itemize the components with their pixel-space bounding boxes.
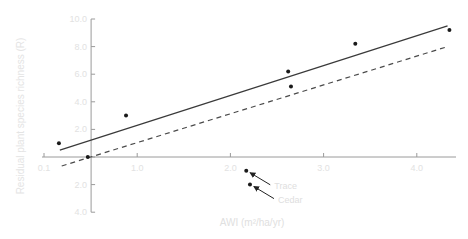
data-point — [248, 183, 252, 187]
y-axis-title-group: Residual plant species richness (R) — [15, 38, 26, 195]
x-tick-label: 3.0 — [317, 163, 330, 173]
y-axis-title: Residual plant species richness (R) — [15, 38, 26, 195]
data-points — [57, 28, 452, 187]
x-axis-title: AWI (m²/ha/yr) — [220, 217, 285, 228]
annotation-label: Cedar — [278, 195, 303, 205]
y-tick-label: 10.0 — [70, 14, 88, 24]
y-tick-label: 4.0 — [75, 207, 88, 217]
axes: 0.11.02.03.04.010.08.06.04.02.02.04.0 — [38, 14, 456, 217]
annotation-arrow — [250, 173, 270, 185]
x-tick-label: 2.0 — [224, 163, 237, 173]
dashed-regression-line — [62, 47, 448, 166]
x-tick-label: 1.0 — [131, 163, 144, 173]
data-point — [57, 141, 61, 145]
scatter-chart: Residual plant species richness (R) 0.11… — [0, 0, 468, 239]
x-tick-label: 4.0 — [411, 163, 424, 173]
annotation-label: Trace — [274, 181, 297, 191]
y-tick-label: 6.0 — [75, 69, 88, 79]
data-point — [86, 155, 90, 159]
x-tick-label: 0.1 — [38, 163, 51, 173]
y-tick-label: 2.0 — [75, 124, 88, 134]
y-tick-label: 8.0 — [75, 42, 88, 52]
y-tick-label: 2.0 — [75, 180, 88, 190]
y-tick-label: 4.0 — [75, 97, 88, 107]
data-point — [353, 42, 357, 46]
solid-regression-line — [60, 26, 448, 150]
data-point — [289, 85, 293, 89]
data-point — [447, 28, 451, 32]
data-point — [244, 169, 248, 173]
data-point — [124, 114, 128, 118]
annotations: TraceCedar — [250, 173, 302, 205]
data-point — [286, 69, 290, 73]
regression-lines — [60, 26, 448, 166]
annotation-arrow — [254, 187, 274, 199]
